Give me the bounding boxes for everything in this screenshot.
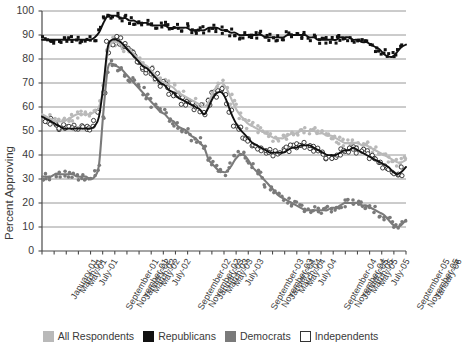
data-point <box>381 166 385 170</box>
data-point <box>337 142 341 146</box>
data-point <box>237 117 241 121</box>
data-point <box>346 138 350 142</box>
data-point <box>48 178 52 182</box>
legend-swatch-icon <box>225 331 236 342</box>
data-point <box>255 31 258 34</box>
data-point <box>63 169 67 173</box>
data-point <box>267 39 270 42</box>
data-point <box>154 27 157 30</box>
data-point <box>234 34 237 37</box>
legend-item-independents[interactable]: Independents <box>300 330 379 342</box>
data-point <box>70 175 74 179</box>
data-point <box>201 25 204 28</box>
data-point <box>214 30 217 33</box>
data-point <box>160 22 163 25</box>
data-point <box>89 35 92 38</box>
data-point <box>374 50 377 53</box>
data-point <box>212 24 215 27</box>
data-point <box>395 164 399 168</box>
data-point <box>311 149 315 153</box>
data-point <box>300 203 304 207</box>
data-point <box>374 145 378 149</box>
data-point <box>346 39 349 42</box>
legend-label: Republicans <box>158 330 216 342</box>
data-point <box>276 39 279 42</box>
data-point <box>190 31 193 34</box>
legend-label: All Respondents <box>58 330 134 342</box>
data-point <box>71 119 75 123</box>
data-point <box>58 175 62 179</box>
data-point <box>102 15 105 18</box>
data-point <box>194 97 198 101</box>
data-point <box>167 92 171 96</box>
data-point <box>116 12 119 15</box>
data-point <box>146 19 149 22</box>
data-point <box>247 119 251 123</box>
legend-swatch-icon <box>300 331 311 342</box>
data-point <box>309 39 312 42</box>
data-point <box>110 59 114 63</box>
data-point <box>335 42 338 45</box>
data-point <box>52 42 55 45</box>
data-point <box>67 36 70 39</box>
data-point <box>387 160 391 164</box>
data-point <box>67 175 71 179</box>
legend-swatch-icon <box>43 331 54 342</box>
legend-label: Democrats <box>240 330 291 342</box>
data-point <box>346 198 350 202</box>
data-point <box>363 207 367 211</box>
data-point <box>288 143 292 147</box>
legend-item-all-respondents[interactable]: All Respondents <box>43 330 134 342</box>
data-point <box>284 145 288 149</box>
data-point <box>338 39 341 42</box>
data-point <box>224 174 228 178</box>
data-point <box>221 32 224 35</box>
data-point <box>221 26 224 29</box>
data-point <box>354 151 358 155</box>
data-point <box>351 138 355 142</box>
legend-item-republicans[interactable]: Republicans <box>143 330 216 342</box>
data-point <box>324 156 328 160</box>
data-point <box>236 150 240 154</box>
data-point <box>285 30 288 33</box>
data-point <box>119 36 123 40</box>
data-point <box>128 22 131 25</box>
data-point <box>163 108 167 112</box>
data-point <box>255 37 258 40</box>
data-point <box>190 139 194 143</box>
data-point <box>94 39 97 42</box>
data-point <box>263 185 267 189</box>
data-point <box>76 116 80 120</box>
data-point <box>302 140 306 144</box>
data-point <box>271 154 275 158</box>
data-point <box>221 79 225 83</box>
legend-item-democrats[interactable]: Democrats <box>225 330 291 342</box>
data-point <box>400 157 404 161</box>
data-point <box>384 48 387 51</box>
legend-swatch-icon <box>143 331 154 342</box>
data-point <box>133 23 136 26</box>
data-point <box>179 102 183 106</box>
data-point <box>320 212 324 216</box>
data-point <box>320 129 324 133</box>
data-point <box>308 132 312 136</box>
data-point <box>233 154 237 158</box>
data-point <box>109 17 112 20</box>
data-point <box>199 136 203 140</box>
data-point <box>330 210 334 214</box>
data-point <box>121 19 124 22</box>
data-point <box>77 36 80 39</box>
data-point <box>184 103 188 107</box>
data-point <box>399 165 403 169</box>
data-point <box>318 42 321 45</box>
data-point <box>351 198 355 202</box>
data-point <box>44 172 48 176</box>
data-point <box>91 118 95 122</box>
data-point <box>330 156 334 160</box>
data-point <box>173 82 177 86</box>
data-point <box>324 42 327 45</box>
legend-label: Independents <box>315 330 379 342</box>
data-point <box>256 131 260 135</box>
data-point <box>70 35 73 38</box>
data-point <box>180 30 183 33</box>
